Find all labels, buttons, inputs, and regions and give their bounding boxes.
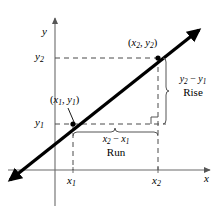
run-expression: x2 − x1 (92, 134, 140, 146)
figure-canvas (0, 0, 219, 216)
y1-subscript: 1 (40, 121, 44, 130)
leader-line-p1 (68, 108, 74, 122)
x-tick-label-x1: x1 (67, 175, 76, 188)
run-word-label: Run (92, 147, 140, 158)
p1-close-paren: ) (76, 94, 80, 105)
p2-close-paren: ) (154, 37, 158, 48)
run-annotation: x2 − x1 Run (92, 134, 140, 159)
y-tick-label-y2: y2 (35, 51, 44, 64)
point-label-p1: (x1, y1) (50, 95, 79, 107)
run-minus-sign: − (111, 133, 122, 144)
y2-subscript: 2 (40, 55, 44, 64)
x-tick-label-x2: x2 (152, 175, 161, 188)
rise-annotation: y2 − y1 Rise (170, 74, 216, 99)
rise-expression: y2 − y1 (170, 74, 216, 86)
point-marker-p1 (70, 121, 75, 126)
y-axis-label: y (42, 26, 47, 37)
slope-diagram-figure: y x y2 y1 x1 x2 (x1, y1) (x2, y2) y2 − y… (0, 0, 219, 216)
run-subtrahend-subscript: 1 (126, 138, 130, 146)
rise-word-label: Rise (170, 87, 216, 98)
point-marker-p2 (155, 55, 160, 60)
rise-brace (163, 58, 169, 124)
x2-subscript: 2 (157, 179, 161, 188)
y-tick-label-y1: y1 (35, 117, 44, 130)
right-angle-marker (151, 117, 158, 124)
point-label-p2: (x2, y2) (128, 38, 157, 50)
x1-subscript: 1 (72, 179, 76, 188)
x-axis-label: x (204, 173, 209, 184)
rise-subtrahend-subscript: 1 (203, 78, 207, 86)
rise-minus-sign: − (188, 73, 199, 84)
